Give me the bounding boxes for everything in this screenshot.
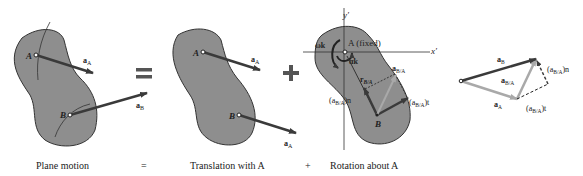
accel-b-label: aA xyxy=(284,139,293,149)
caption-rotation: Rotation about A xyxy=(330,160,398,171)
accel-a-label: aA xyxy=(83,56,92,66)
translation-panel: A B aA aA xyxy=(173,29,296,149)
a-b-label: aB xyxy=(497,55,505,65)
point-a-label: A xyxy=(192,48,199,58)
accel-b-label: aB xyxy=(136,101,144,111)
a-ba-label: aB/A xyxy=(501,76,514,86)
caption-plane-motion: Plane motion xyxy=(36,160,89,171)
x-axis-label: x′ xyxy=(430,46,438,56)
y-axis-label: y′ xyxy=(342,10,350,20)
point-b-label: B xyxy=(59,110,66,120)
a-a-label: aA xyxy=(494,100,502,110)
omega-k-label: ωk xyxy=(315,41,326,50)
point-b-marker xyxy=(376,114,379,117)
plus-operator xyxy=(283,65,299,81)
point-b-label: B xyxy=(228,111,235,121)
origin-marker xyxy=(459,79,463,83)
caption-plus: + xyxy=(305,160,311,171)
a-ba-label: aB/A xyxy=(392,64,405,74)
point-b-marker xyxy=(237,113,241,117)
caption-translation: Translation with A xyxy=(190,160,265,171)
point-a-label: A xyxy=(25,51,32,61)
point-a-marker xyxy=(201,50,205,54)
a-ba-tangential-label: (aB/A)t xyxy=(409,98,430,108)
kinematics-diagram: A B aA aB A B aA aA x′ y′ ωk αk xyxy=(0,0,583,176)
equals-operator xyxy=(136,68,152,79)
rigid-body-shape xyxy=(173,29,255,145)
vector-sum-panel: aB aB/A aA (aB/A)n (aB/A)t xyxy=(459,55,569,114)
rigid-body-shape xyxy=(14,30,97,146)
point-b-label: B xyxy=(374,119,381,129)
a-ba-normal-label: (aB/A)n xyxy=(329,96,351,106)
accel-a-label: aA xyxy=(251,55,260,65)
point-a-marker xyxy=(343,50,347,54)
plane-motion-panel: A B aA aB xyxy=(14,22,147,146)
rotation-panel: x′ y′ ωk αk A (fixed) rB/A aB/A (aB/A)n … xyxy=(303,8,438,150)
fixed-point-label: A (fixed) xyxy=(348,38,381,48)
a-ba-tangential-label: (aB/A)t xyxy=(526,104,547,114)
caption-equals: = xyxy=(141,160,147,171)
point-b-marker xyxy=(68,113,72,117)
alpha-k-label: αk xyxy=(349,57,358,66)
a-ba-normal-label: (aB/A)n xyxy=(547,65,569,75)
point-a-marker xyxy=(34,53,38,57)
